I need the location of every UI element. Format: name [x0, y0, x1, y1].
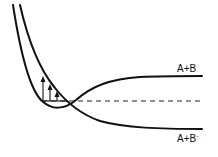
- lower-asymptote-label: A+B-: [177, 134, 198, 144]
- upper-asymptote-label: A+B: [177, 64, 196, 74]
- arrow-1-head: [41, 76, 46, 82]
- neutral-potential-curve: [13, 5, 202, 108]
- anion-charge-superscript: -: [196, 133, 198, 139]
- anion-potential-curve: [20, 5, 202, 129]
